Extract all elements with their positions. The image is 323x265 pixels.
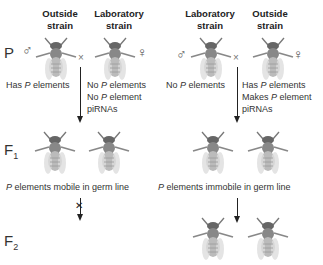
right-f1-note: P elements immobile in germ line: [158, 181, 291, 193]
left-parent2-strain-label: Laboratory strain: [84, 8, 154, 32]
fly-icon: [86, 130, 132, 176]
arrow-line: [237, 67, 238, 117]
strain-line2: strain: [84, 20, 154, 32]
f2-letter: F: [4, 232, 13, 249]
right-parent2-strain-label: Outside strain: [240, 8, 300, 32]
blocked-x-icon: ✕: [75, 200, 83, 211]
fly-icon: [32, 130, 78, 176]
generation-f1-label: F1: [4, 141, 18, 161]
fly-icon: [92, 36, 138, 82]
right-parent1-note: No P elements: [166, 79, 225, 91]
strain-line2: strain: [240, 20, 300, 32]
f1-letter: F: [4, 141, 13, 158]
fly-icon: [190, 216, 236, 262]
strain-line2: strain: [175, 20, 245, 32]
strain-line2: strain: [30, 20, 90, 32]
strain-line1: Laboratory: [84, 8, 154, 20]
male-symbol-icon: ♂: [22, 42, 33, 58]
right-parent1-strain-label: Laboratory strain: [175, 8, 245, 32]
strain-line1: Outside: [30, 8, 90, 20]
fly-icon: [190, 130, 236, 176]
male-symbol-icon: ♂: [176, 46, 187, 62]
right-parent2-note: Has P elements Makes P element piRNAs: [242, 79, 312, 115]
f2-subscript: 2: [13, 242, 18, 252]
fly-icon: [188, 36, 234, 82]
f1-subscript: 1: [13, 151, 18, 161]
strain-line1: Outside: [240, 8, 300, 20]
cross-symbol: ×: [78, 52, 84, 63]
arrow-line: [237, 198, 238, 218]
fly-icon: [33, 36, 79, 82]
left-parent1-strain-label: Outside strain: [30, 8, 90, 32]
fly-icon: [245, 130, 291, 176]
female-symbol-icon: ♀: [293, 46, 304, 62]
cross-symbol: ×: [233, 52, 239, 63]
generation-f2-label: F2: [4, 232, 18, 252]
fly-icon: [250, 36, 296, 82]
female-symbol-icon: ♀: [137, 44, 148, 60]
arrow-down-icon: [234, 116, 240, 123]
arrow-line: [80, 67, 81, 117]
arrow-down-icon: [77, 214, 83, 221]
strain-line1: Laboratory: [175, 8, 245, 20]
generation-p-label: P: [4, 44, 14, 61]
left-f1-note: P elements mobile in germ line: [6, 181, 129, 193]
left-parent2-note: No P elements No P element piRNAs: [87, 79, 146, 115]
left-parent1-note: Has P elements: [6, 79, 70, 91]
fly-icon: [245, 216, 291, 262]
arrow-down-icon: [77, 116, 83, 123]
